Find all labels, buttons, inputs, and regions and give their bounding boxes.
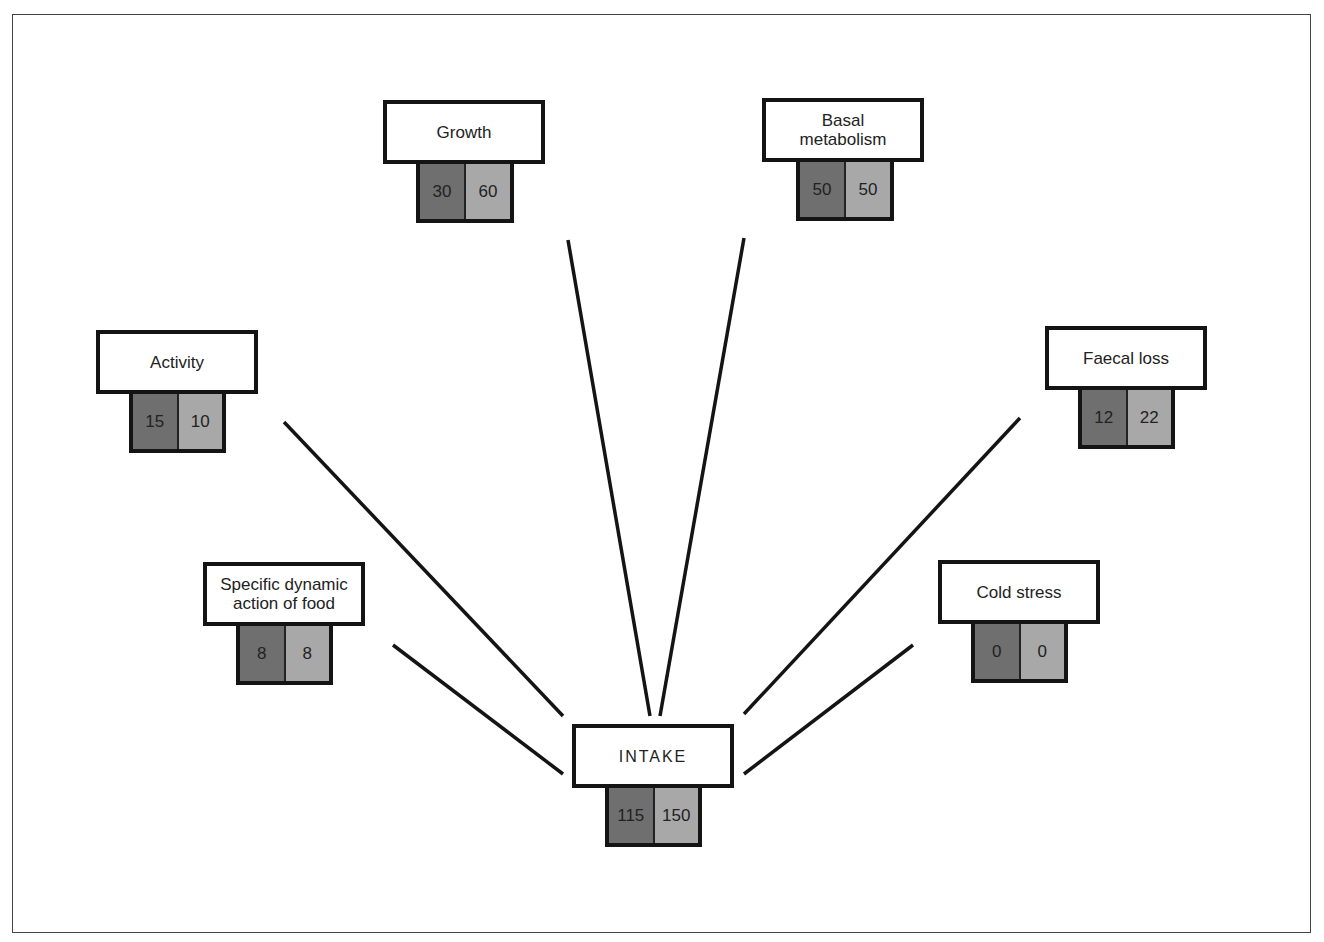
sda-value-2: 8	[286, 626, 330, 681]
growth-label: Growth	[383, 100, 545, 164]
growth-values: 30 60	[416, 160, 514, 223]
intake-label: INTAKE	[572, 724, 734, 788]
faecal-value-2: 22	[1128, 390, 1172, 445]
activity-value-2: 10	[179, 394, 223, 449]
faecal-loss-values: 12 22	[1078, 386, 1175, 449]
cold-value-1: 0	[975, 624, 1021, 679]
growth-value-2: 60	[466, 164, 510, 219]
cold-value-2: 0	[1021, 624, 1065, 679]
intake-value-2: 150	[655, 788, 699, 843]
sda-value-1: 8	[240, 626, 286, 681]
growth-value-1: 30	[420, 164, 466, 219]
activity-label: Activity	[96, 330, 258, 394]
intake-values: 115 150	[605, 784, 702, 847]
intake-value-1: 115	[609, 788, 655, 843]
basal-metabolism-values: 50 50	[796, 158, 894, 221]
basal-metabolism-label: Basal metabolism	[762, 98, 924, 162]
activity-values: 15 10	[129, 390, 226, 453]
cold-stress-values: 0 0	[971, 620, 1068, 683]
basal-value-2: 50	[846, 162, 890, 217]
sda-label: Specific dynamic action of food	[203, 562, 365, 626]
activity-value-1: 15	[133, 394, 179, 449]
sda-values: 8 8	[236, 622, 333, 685]
faecal-loss-label: Faecal loss	[1045, 326, 1207, 390]
cold-stress-label: Cold stress	[938, 560, 1100, 624]
basal-value-1: 50	[800, 162, 846, 217]
faecal-value-1: 12	[1082, 390, 1128, 445]
